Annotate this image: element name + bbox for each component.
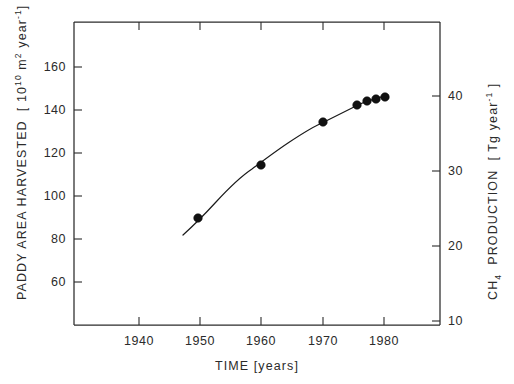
y-left-tick-label-60: 60 <box>51 275 66 289</box>
y-axis-left-title: PADDY AREA HARVESTED [ 1010 m2 year-1] <box>13 5 29 300</box>
x-tick-label-1970: 1970 <box>308 334 338 348</box>
y-right-title-main: PRODUCTION <box>486 170 500 265</box>
y-right-title-exponent: -1 <box>484 92 494 102</box>
x-tick-label-1950: 1950 <box>185 334 215 348</box>
x-axis-title: TIME [years] <box>215 359 299 373</box>
y-left-tick-label-80: 80 <box>51 232 66 246</box>
y-left-tick-label-160: 160 <box>44 60 66 74</box>
y-right-tick-label-30: 30 <box>448 164 463 178</box>
data-point <box>353 101 362 110</box>
data-point <box>363 97 372 106</box>
y-left-tick-label-120: 120 <box>44 146 66 160</box>
data-point <box>257 161 266 170</box>
y-left-title-exponent-year: -1 <box>13 9 23 19</box>
y-right-tick-label-20: 20 <box>448 239 463 253</box>
y-right-tick-label-40: 40 <box>448 89 463 103</box>
y-left-tick-label-140: 140 <box>44 103 66 117</box>
y-left-tick-label-100: 100 <box>44 189 66 203</box>
y-left-title-unit-m: m <box>15 58 29 70</box>
y-right-title-species: CH <box>486 280 500 300</box>
svg-text:PADDY AREA HARVESTED [ 1010: PADDY AREA HARVESTED [ 1010 m2 year-1] <box>13 5 29 300</box>
data-point <box>381 93 390 102</box>
y-left-title-base: 10 <box>15 86 29 102</box>
x-tick-label-1940: 1940 <box>124 334 154 348</box>
y-right-tick-label-10: 10 <box>448 314 463 328</box>
paddy-area-ch4-production-chart: 1940 1950 1960 1970 1980 160 140 120 100… <box>0 0 514 384</box>
y-left-title-main: PADDY AREA HARVESTED <box>15 120 29 300</box>
y-left-title-bracket-close: ] <box>15 5 29 10</box>
y-right-title-bracket-close: ] <box>486 83 500 88</box>
chart-background <box>0 0 514 384</box>
y-right-title-unit: Tg year <box>486 102 500 152</box>
x-tick-label-1960: 1960 <box>246 334 276 348</box>
y-left-title-exponent: 10 <box>13 74 23 86</box>
x-tick-label-1980: 1980 <box>369 334 399 348</box>
y-left-title-unit-year: year <box>15 19 29 48</box>
chart-figure: 1940 1950 1960 1970 1980 160 140 120 100… <box>0 0 514 384</box>
data-point <box>372 95 381 104</box>
data-point <box>319 118 328 127</box>
data-point <box>194 214 203 223</box>
